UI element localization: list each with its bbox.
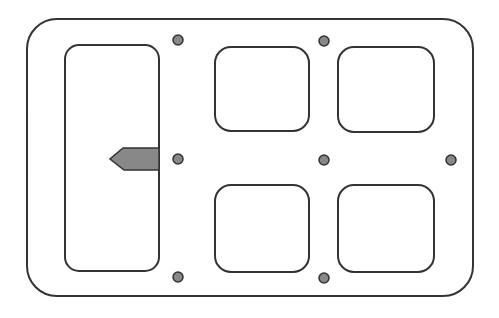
square-panel-bottom-left — [215, 185, 309, 272]
square-panel-bottom-right — [338, 185, 434, 272]
diagram-canvas — [0, 0, 499, 318]
dot-marker — [446, 155, 456, 165]
dot-marker — [173, 154, 183, 164]
dot-marker — [173, 272, 183, 282]
left-arrow-icon — [110, 148, 159, 170]
dot-marker — [173, 35, 183, 45]
dot-marker — [319, 36, 329, 46]
outer-frame — [27, 19, 473, 296]
square-panel-top-left — [215, 47, 309, 131]
dot-marker — [319, 273, 329, 283]
dot-marker — [319, 155, 329, 165]
square-panel-top-right — [338, 47, 434, 132]
